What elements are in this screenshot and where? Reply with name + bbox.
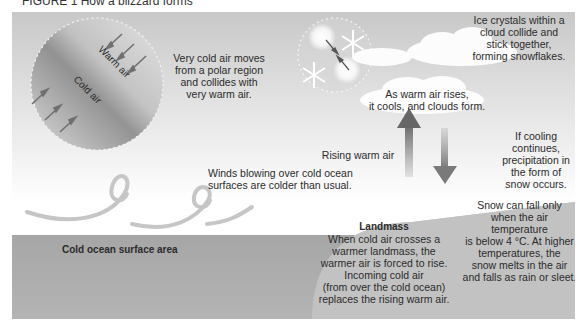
- rising-warm-air-label: Rising warm air: [318, 149, 398, 161]
- snow-temperature-text: Snow can fall only when the air temperat…: [462, 199, 575, 283]
- air-mass-collision-circle: [31, 18, 163, 150]
- polar-collision-text: Very cold air moves from a polar region …: [164, 52, 274, 100]
- clouds-form-text: As warm air rises, it cools, and clouds …: [362, 88, 492, 112]
- figure-title: FIGURE 1 How a blizzard forms: [22, 0, 193, 8]
- falling-snow-arrow: [433, 128, 457, 184]
- ice-crystals-text: Ice crystals within a cloud collide and …: [464, 14, 574, 62]
- diagram-panel: Warm air Cold air Very cold air moves fr…: [12, 12, 575, 319]
- cold-ocean-title: Cold ocean surface area: [62, 244, 222, 256]
- cooling-continues-text: If cooling continues, precipitation in t…: [496, 130, 575, 190]
- landmass-body-text: When cold air crosses a warmer landmass,…: [314, 233, 454, 305]
- landmass-title: Landmass: [344, 221, 424, 233]
- winds-ocean-text: Winds blowing over cold ocean surfaces a…: [208, 167, 388, 191]
- rising-air-arrow: [397, 108, 421, 177]
